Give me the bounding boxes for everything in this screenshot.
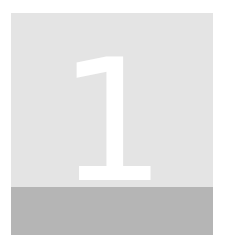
bottom-band [11, 187, 213, 235]
tile-number: 1 [11, 36, 213, 206]
number-tile: 1 [11, 13, 213, 187]
